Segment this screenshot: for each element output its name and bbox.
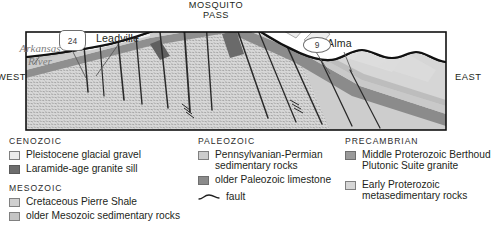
- legend-item-fault: fault: [198, 191, 343, 203]
- legend-label-fault: fault: [226, 191, 245, 203]
- legend-label-older-mesozoic-sedimentary-rocks: older Mesozoic sedimentary rocks: [26, 210, 180, 222]
- us-highway-shield-icon: 24: [59, 30, 86, 51]
- legend-era-precambrian: PRECAMBRIAN: [345, 136, 493, 146]
- legend-swatch-middle-proterozoic-berthoud-granite: [345, 151, 356, 160]
- legend-swatch-older-mesozoic-sedimentary-rocks: [9, 212, 20, 221]
- legend-item-early-proterozoic-metasedimentary-rocks: Early Proterozoic metasedimentary rocks: [345, 179, 493, 202]
- legend-label-early-proterozoic-metasedimentary-rocks: Early Proterozoic metasedimentary rocks: [362, 179, 493, 202]
- label-arkansas-river-line2: River: [6, 55, 74, 68]
- legend-label-older-paleozoic-limestone: older Paleozoic limestone: [215, 174, 331, 186]
- legend-item-pleistocene-glacial-gravel: Pleistocene glacial gravel: [9, 149, 194, 161]
- label-mosquito-pass: MOSQUITO PASS: [174, 1, 258, 20]
- legend-era-cenozoic: CENOZOIC: [9, 136, 194, 146]
- label-mosquito-pass-line2: PASS: [174, 11, 258, 21]
- legend-item-laramide-granite-sill: Laramide-age granite sill: [9, 163, 194, 175]
- legend: CENOZOIC Pleistocene glacial gravel Lara…: [0, 135, 494, 235]
- legend-item-cretaceous-pierre-shale: Cretaceous Pierre Shale: [9, 196, 194, 208]
- legend-column-left: CENOZOIC Pleistocene glacial gravel Lara…: [9, 135, 194, 224]
- legend-swatch-pleistocene-glacial-gravel: [9, 151, 20, 160]
- legend-item-older-mesozoic-sedimentary-rocks: older Mesozoic sedimentary rocks: [9, 210, 194, 222]
- legend-item-pennsylvanian-permian-sedimentary-rocks: Pennsylvanian-Permian sedimentary rocks: [198, 149, 343, 172]
- legend-item-middle-proterozoic-berthoud-granite: Middle Proterozoic Berthoud Plutonic Sui…: [345, 149, 493, 172]
- legend-label-middle-proterozoic-berthoud-granite: Middle Proterozoic Berthoud Plutonic Sui…: [362, 149, 493, 172]
- label-leadville: Leadville: [96, 33, 139, 44]
- legend-label-pleistocene-glacial-gravel: Pleistocene glacial gravel: [26, 149, 141, 161]
- legend-label-cretaceous-pierre-shale: Cretaceous Pierre Shale: [26, 196, 137, 208]
- legend-era-paleozoic: PALEOZOIC: [198, 136, 343, 146]
- legend-label-pennsylvanian-permian-sedimentary-rocks: Pennsylvanian-Permian sedimentary rocks: [215, 149, 343, 172]
- label-east: EAST: [455, 72, 482, 82]
- state-highway-shield-icon: 9: [303, 37, 331, 53]
- legend-era-mesozoic: MESOZOIC: [9, 183, 194, 193]
- section-body: [26, 5, 446, 130]
- legend-column-middle: PALEOZOIC Pennsylvanian-Permian sediment…: [198, 135, 343, 202]
- legend-item-older-paleozoic-limestone: older Paleozoic limestone: [198, 174, 343, 186]
- legend-swatch-cretaceous-pierre-shale: [9, 198, 20, 207]
- state-highway-number: 9: [315, 40, 320, 50]
- legend-swatch-pennsylvanian-permian-sedimentary-rocks: [198, 151, 209, 160]
- geologic-cross-section-figure: MOSQUITO PASS Leadville Alma Arkansas Ri…: [0, 0, 494, 235]
- fault-line-icon: [198, 192, 220, 202]
- legend-swatch-early-proterozoic-metasedimentary-rocks: [345, 181, 356, 190]
- legend-column-right: PRECAMBRIAN Middle Proterozoic Berthoud …: [345, 135, 493, 204]
- legend-swatch-older-paleozoic-limestone: [198, 176, 209, 185]
- us-highway-number: 24: [68, 36, 77, 46]
- label-west: WEST: [0, 72, 26, 82]
- legend-swatch-laramide-granite-sill: [9, 165, 20, 174]
- legend-label-laramide-granite-sill: Laramide-age granite sill: [26, 163, 138, 175]
